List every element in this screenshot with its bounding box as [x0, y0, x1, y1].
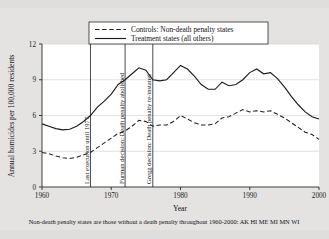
x-tick-label: 1980: [173, 192, 188, 200]
event-label: Last execution until 1977: [83, 116, 90, 184]
x-tick-label: 1960: [35, 192, 50, 200]
x-tick-label: 2000: [312, 192, 327, 200]
y-tick-label: 3: [32, 148, 36, 156]
x-tick-label: 1990: [243, 192, 258, 200]
y-axis-label: Annual homicides per 100,000 residents: [7, 55, 16, 178]
homicide-rate-line-chart: 036912 19601970198019902000 Last executi…: [0, 8, 329, 230]
y-tick-label: 12: [29, 41, 37, 49]
y-tick-label: 0: [32, 184, 36, 192]
x-tick-label: 1970: [104, 192, 119, 200]
chart-footnote: Non-death penalty states are those witho…: [29, 218, 300, 225]
legend-label-controls: Controls: Non-death penalty states: [131, 25, 234, 34]
event-label: Gregg decision: Death penalty re-instate…: [145, 73, 152, 184]
y-tick-label: 9: [32, 76, 36, 84]
x-axis-label: Year: [173, 204, 187, 213]
legend-label-treatment: Treatment states (all others): [131, 34, 214, 43]
event-label: Furman decision: Death penalty abolished: [118, 72, 125, 184]
y-tick-label: 6: [32, 112, 36, 120]
figure-panel: 036912 19601970198019902000 Last executi…: [0, 8, 329, 230]
top-caption: [0, 0, 329, 8]
